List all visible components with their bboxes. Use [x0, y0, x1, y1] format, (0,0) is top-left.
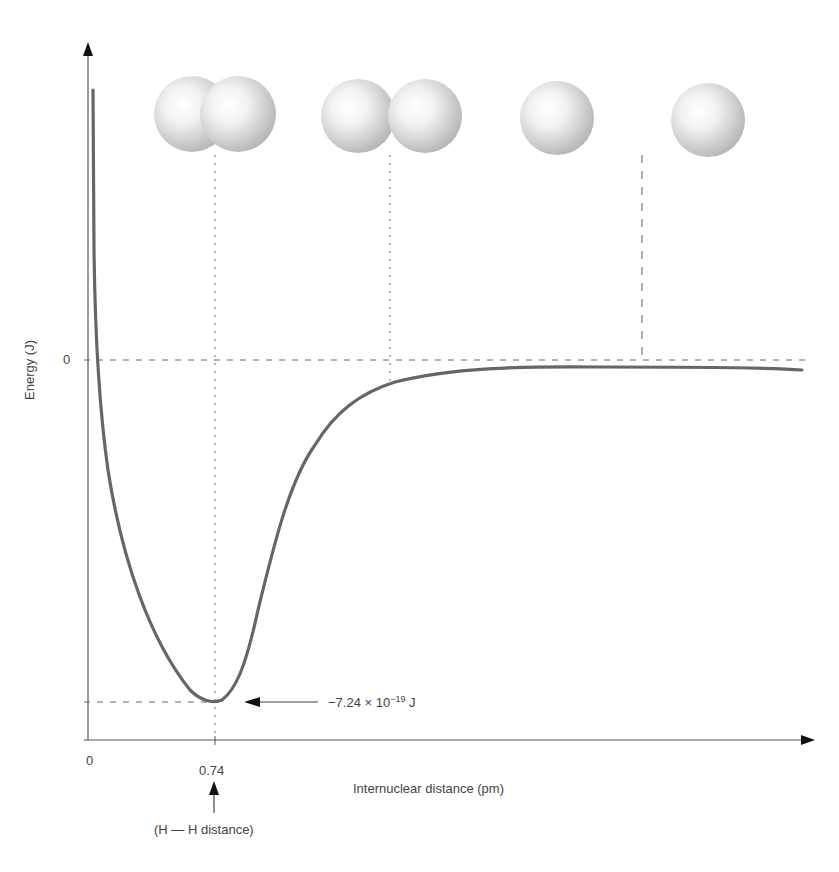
hh-distance-label: (H — H distance) — [154, 822, 254, 837]
x-axis-label: Internuclear distance (pm) — [353, 781, 504, 796]
min-energy-arrow — [244, 697, 318, 707]
hh-distance-arrow — [209, 781, 219, 813]
y-axis-arrow-icon — [83, 42, 93, 56]
x-axis-arrow-icon — [801, 735, 815, 745]
x-axis — [84, 735, 815, 745]
y-tick-zero: 0 — [63, 352, 70, 367]
min-energy-exponent: −19 — [390, 694, 405, 704]
left-arrow-icon — [244, 697, 260, 707]
y-axis-label: Energy (J) — [22, 340, 37, 400]
atom-separated-left — [520, 81, 594, 155]
x-tick-bond-length: 0.74 — [199, 763, 224, 778]
reference-lines — [84, 155, 805, 740]
x-tick-zero: 0 — [86, 753, 93, 768]
atom-separated-right — [671, 83, 745, 157]
min-energy-unit: J — [405, 695, 415, 710]
min-energy-value: −7.24 × 10 — [328, 695, 390, 710]
atoms-bonded — [154, 76, 276, 152]
potential-energy-curve — [93, 90, 802, 702]
up-arrow-icon — [209, 781, 219, 795]
min-energy-label: −7.24 × 10−19 J — [328, 694, 416, 710]
y-axis — [83, 42, 93, 740]
potential-energy-chart — [0, 0, 839, 872]
atoms-touching — [321, 79, 462, 153]
